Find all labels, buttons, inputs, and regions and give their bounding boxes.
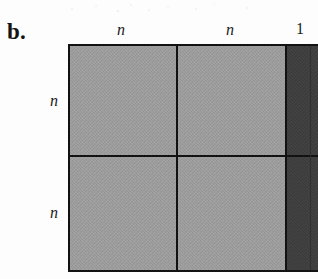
matrix-block-r1c1 <box>178 157 285 272</box>
row-label-0: n <box>50 93 58 109</box>
row-label-1: n <box>50 205 58 221</box>
column-label-0: n <box>117 22 125 38</box>
partition-rule-vertical-1 <box>176 46 178 272</box>
figure-panel-b: b. n n 1 n n <box>0 0 318 279</box>
block-matrix <box>68 44 318 272</box>
matrix-block-r1c0 <box>70 157 176 272</box>
panel-label: b. <box>7 20 26 43</box>
matrix-block-r0c1 <box>178 46 285 155</box>
matrix-block-r0c0 <box>70 46 176 155</box>
column-label-1: n <box>226 22 234 38</box>
scan-noise-artifact <box>0 0 318 22</box>
matrix-block-r0c2 <box>287 46 318 155</box>
partition-rule-vertical-2 <box>285 46 287 272</box>
matrix-block-r1c2 <box>287 157 318 272</box>
partition-rule-vertical-edge <box>310 46 311 272</box>
column-label-2: 1 <box>296 21 304 37</box>
partition-rule-horizontal-1 <box>70 155 318 157</box>
